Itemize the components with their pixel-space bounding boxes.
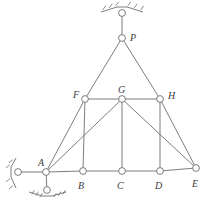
joint-label-e: E <box>192 179 198 189</box>
support-pin-top-support <box>119 10 126 17</box>
truss-nodes-group <box>43 35 200 176</box>
truss-diagram-figure: PFGHABCDE <box>0 0 219 203</box>
joint-label-h: H <box>168 91 175 101</box>
truss-joint-b <box>80 168 87 175</box>
support-bottom-support <box>29 172 66 197</box>
truss-members-group <box>46 38 196 172</box>
support-hatching-lower <box>6 179 12 189</box>
truss-member-h-e <box>160 99 196 168</box>
truss-joint-c <box>119 168 126 175</box>
truss-member-a-b <box>46 171 83 172</box>
truss-joint-e <box>193 165 200 172</box>
truss-member-p-f <box>85 38 122 99</box>
joint-label-g: G <box>118 85 125 95</box>
support-hatching-left <box>103 2 118 9</box>
truss-joint-d <box>157 168 164 175</box>
joint-label-a: A <box>38 158 44 168</box>
truss-member-d-e <box>160 168 196 171</box>
support-pin-left-support <box>15 169 22 176</box>
joint-label-c: C <box>117 181 124 191</box>
truss-joint-h <box>157 96 164 103</box>
truss-member-g-e <box>122 99 196 168</box>
truss-member-a-g <box>46 99 122 172</box>
joint-label-p: P <box>130 33 136 43</box>
truss-joint-p <box>119 35 126 42</box>
truss-member-f-a <box>46 99 85 172</box>
joint-label-d: D <box>155 181 162 191</box>
support-top-support <box>101 2 143 38</box>
truss-diagram-canvas <box>0 0 219 203</box>
truss-member-p-h <box>122 38 160 99</box>
joint-label-b: B <box>78 181 84 191</box>
truss-joint-g <box>119 96 126 103</box>
support-hatching-right <box>54 190 65 197</box>
support-pin-bottom-support <box>44 187 51 194</box>
joint-label-f: F <box>73 90 79 100</box>
truss-joint-f <box>82 96 89 103</box>
truss-joint-a <box>43 169 50 176</box>
